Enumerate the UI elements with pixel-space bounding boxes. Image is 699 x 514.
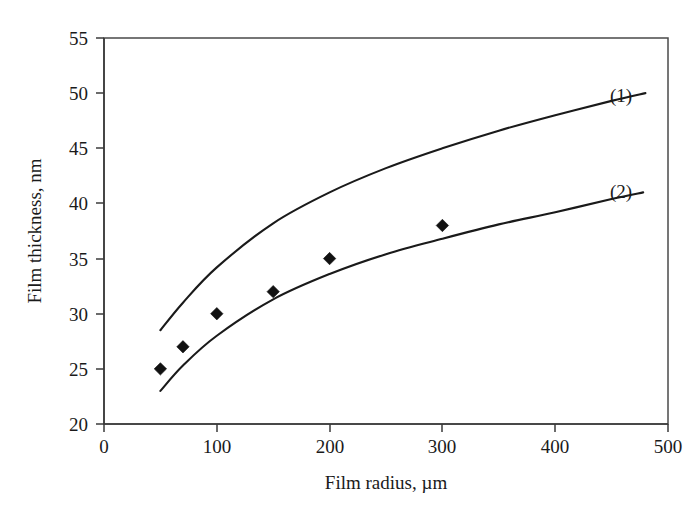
x-ticklabel-400: 400 bbox=[541, 436, 570, 457]
curve-label-2: (2) bbox=[610, 181, 632, 203]
y-axis-title: Film thickness, nm bbox=[24, 158, 45, 303]
chart-figure: 20 25 30 35 40 45 50 55 0 100 200 300 40… bbox=[0, 0, 699, 514]
chart-canvas: 20 25 30 35 40 45 50 55 0 100 200 300 40… bbox=[0, 0, 699, 514]
curve-label-1: (1) bbox=[610, 85, 632, 107]
y-ticklabel-25: 25 bbox=[69, 359, 88, 380]
x-ticklabel-300: 300 bbox=[428, 436, 457, 457]
x-axis-title: Film radius, µm bbox=[325, 472, 448, 493]
y-ticklabel-45: 45 bbox=[69, 138, 88, 159]
y-ticklabel-55: 55 bbox=[69, 28, 88, 49]
x-ticklabel-100: 100 bbox=[203, 436, 232, 457]
x-ticklabel-200: 200 bbox=[316, 436, 345, 457]
x-ticklabel-500: 500 bbox=[654, 436, 683, 457]
y-ticklabel-40: 40 bbox=[69, 193, 88, 214]
y-ticklabel-35: 35 bbox=[69, 249, 88, 270]
y-ticklabel-20: 20 bbox=[69, 414, 88, 435]
y-ticklabel-30: 30 bbox=[69, 304, 88, 325]
x-ticklabel-0: 0 bbox=[99, 436, 109, 457]
y-ticklabel-50: 50 bbox=[69, 83, 88, 104]
